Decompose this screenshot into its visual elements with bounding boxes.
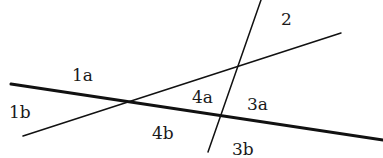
diagram-canvas: 1a 1b 2 4a 3a 4b 3b xyxy=(0,0,383,158)
label-4b: 4b xyxy=(152,123,174,143)
label-4a: 4a xyxy=(192,87,213,107)
diagram-svg: 1a 1b 2 4a 3a 4b 3b xyxy=(0,0,383,158)
label-1a: 1a xyxy=(72,65,93,85)
label-2: 2 xyxy=(281,9,292,29)
label-1b: 1b xyxy=(9,102,31,122)
thin-line-b xyxy=(208,0,261,152)
label-3a: 3a xyxy=(247,94,268,114)
label-3b: 3b xyxy=(232,139,254,158)
thin-line-a xyxy=(23,33,341,136)
